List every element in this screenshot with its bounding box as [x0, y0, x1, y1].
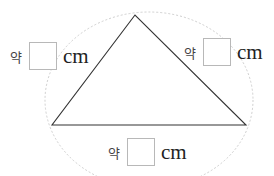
right-side-length-label: 약 cm — [184, 37, 263, 67]
right-side-answer-box[interactable] — [203, 38, 231, 66]
approx-prefix: 약 — [10, 47, 22, 66]
bottom-side-length-label: 약 cm — [108, 137, 187, 167]
unit-cm: cm — [161, 137, 187, 167]
bottom-side-answer-box[interactable] — [127, 138, 155, 166]
approx-prefix: 약 — [108, 143, 120, 162]
unit-cm: cm — [237, 37, 263, 67]
left-side-answer-box[interactable] — [29, 42, 57, 70]
unit-cm: cm — [63, 41, 89, 71]
left-side-length-label: 약 cm — [10, 41, 89, 71]
approx-prefix: 약 — [184, 43, 196, 62]
